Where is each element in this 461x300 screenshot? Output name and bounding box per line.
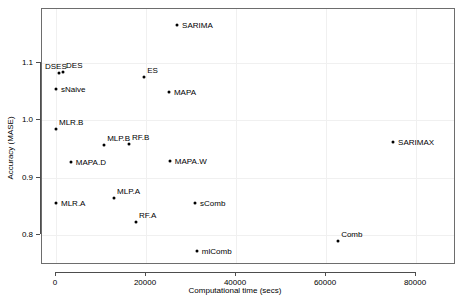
- gridline-vertical: [56, 9, 57, 263]
- data-point-label: RF.A: [139, 211, 156, 220]
- data-point-label: DES: [66, 61, 82, 70]
- plot-area: SARIMADSESDESsNaiveESMAPAMLR.BMLP.BRF.BM…: [41, 8, 455, 264]
- data-point: [55, 127, 58, 130]
- data-point: [58, 71, 61, 74]
- data-point-label: MLR.A: [61, 199, 85, 208]
- gridline-horizontal: [42, 178, 454, 179]
- x-tick-label: 20000: [134, 278, 156, 287]
- data-point: [195, 250, 198, 253]
- gridline-vertical: [236, 9, 237, 263]
- data-point: [69, 160, 72, 163]
- data-point: [143, 76, 146, 79]
- y-axis-title: Accuracy (MASE): [6, 116, 15, 179]
- gridline-horizontal: [42, 235, 454, 236]
- data-point: [194, 201, 197, 204]
- x-tick-mark: [235, 272, 236, 276]
- data-point-label: Comb: [341, 230, 362, 239]
- data-point: [113, 197, 116, 200]
- scatter-chart: SARIMADSESDESsNaiveESMAPAMLR.BMLP.BRF.BM…: [0, 0, 461, 300]
- x-tick-label: 80000: [404, 278, 426, 287]
- x-tick-label: 0: [53, 278, 57, 287]
- gridline-horizontal: [42, 120, 454, 121]
- y-tick-mark: [36, 177, 40, 178]
- data-point-label: MAPA.W: [175, 157, 207, 166]
- data-point-label: sNaive: [61, 85, 85, 94]
- data-point-label: SARIMA: [182, 21, 213, 30]
- x-tick-mark: [55, 272, 56, 276]
- data-point-label: MAPA.D: [76, 158, 106, 167]
- data-point: [135, 220, 138, 223]
- x-tick-mark: [415, 272, 416, 276]
- x-tick-label: 60000: [314, 278, 336, 287]
- y-axis-line: [40, 62, 41, 234]
- data-point-label: SARIMAX: [398, 138, 434, 147]
- y-tick-mark: [36, 119, 40, 120]
- data-point-label: MLR.B: [59, 118, 83, 127]
- data-point: [167, 91, 170, 94]
- data-point: [127, 142, 130, 145]
- y-tick-label: 1.0: [22, 115, 33, 124]
- data-point: [55, 87, 58, 90]
- gridline-horizontal: [42, 63, 454, 64]
- data-point: [168, 160, 171, 163]
- data-point: [103, 143, 106, 146]
- y-tick-label: 1.1: [22, 58, 33, 67]
- data-point-label: ES: [147, 66, 158, 75]
- data-point-label: mlComb: [202, 247, 232, 256]
- data-point-label: MLP.B: [107, 134, 130, 143]
- data-point-label: MAPA: [174, 88, 196, 97]
- gridline-vertical: [326, 9, 327, 263]
- data-point: [176, 24, 179, 27]
- data-point: [55, 201, 58, 204]
- data-point-label: RF.B: [132, 133, 149, 142]
- x-tick-mark: [325, 272, 326, 276]
- y-tick-mark: [36, 62, 40, 63]
- gridline-vertical: [416, 9, 417, 263]
- y-tick-mark: [36, 234, 40, 235]
- x-tick-mark: [145, 272, 146, 276]
- y-tick-label: 0.8: [22, 230, 33, 239]
- x-axis-title: Computational time (secs): [189, 286, 282, 295]
- data-point: [392, 141, 395, 144]
- data-point: [62, 70, 65, 73]
- data-point-label: MLP.A: [117, 187, 140, 196]
- data-point: [337, 239, 340, 242]
- y-tick-label: 0.9: [22, 172, 33, 181]
- data-point-label: sComb: [200, 199, 225, 208]
